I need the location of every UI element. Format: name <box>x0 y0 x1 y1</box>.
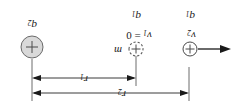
physics-diagram-figure: r2 r1 m v2 v1 = 0 q1 q1 q2 <box>0 0 240 103</box>
dimension-r1-arrowhead-left <box>127 75 136 81</box>
label-velocity-v2: v2 <box>187 29 196 41</box>
dimension-r2-arrowhead-right <box>32 90 41 96</box>
label-charge-q1-left: q1 <box>186 10 195 22</box>
dimension-r1-arrowhead-right <box>32 75 41 81</box>
charge-left-small <box>183 42 197 56</box>
label-charge-q1-center: q1 <box>132 10 141 22</box>
dimension-r2-arrowhead-left <box>180 90 189 96</box>
label-r1: r1 <box>80 73 88 85</box>
label-mass-m: m <box>114 45 122 56</box>
velocity-arrow-head <box>220 45 231 53</box>
diagram-rotated-canvas: r2 r1 m v2 v1 = 0 q1 q1 q2 <box>0 0 240 103</box>
label-velocity-v1: v1 = 0 <box>126 29 152 41</box>
velocity-arrow-left <box>198 45 231 53</box>
charge-center-dashed <box>129 42 143 56</box>
label-charge-q2: q2 <box>28 19 37 31</box>
dimension-r2 <box>32 90 189 96</box>
charge-right-large <box>21 36 43 58</box>
label-r2: r2 <box>118 88 126 100</box>
